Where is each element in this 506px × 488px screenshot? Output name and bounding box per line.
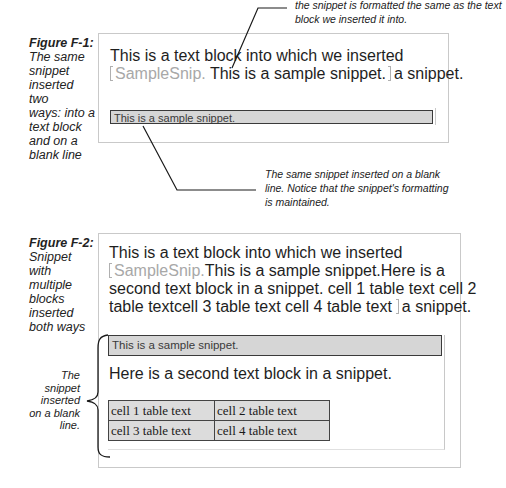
- top-leader-line: [232, 8, 287, 68]
- curly-brace-icon: [87, 335, 110, 457]
- bottom-leader-line: [143, 126, 256, 190]
- leader-lines: [0, 0, 506, 488]
